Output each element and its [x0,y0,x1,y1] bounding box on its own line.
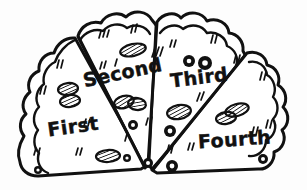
pizza-illustration: First Second Third Fourth [0,0,307,190]
topping-olive-ring [143,158,153,168]
topping-olive-ring [166,160,178,172]
topping-olive-ring [258,154,268,164]
pizza-svg: First Second Third Fourth [0,0,307,190]
topping-olive-ring [128,120,138,130]
topping-olive-ring [34,166,42,174]
topping-olive-ring [123,154,131,162]
topping-olive-ring [164,125,176,137]
topping-hatched-oval [96,149,121,162]
topping-olive-ring [183,55,195,67]
